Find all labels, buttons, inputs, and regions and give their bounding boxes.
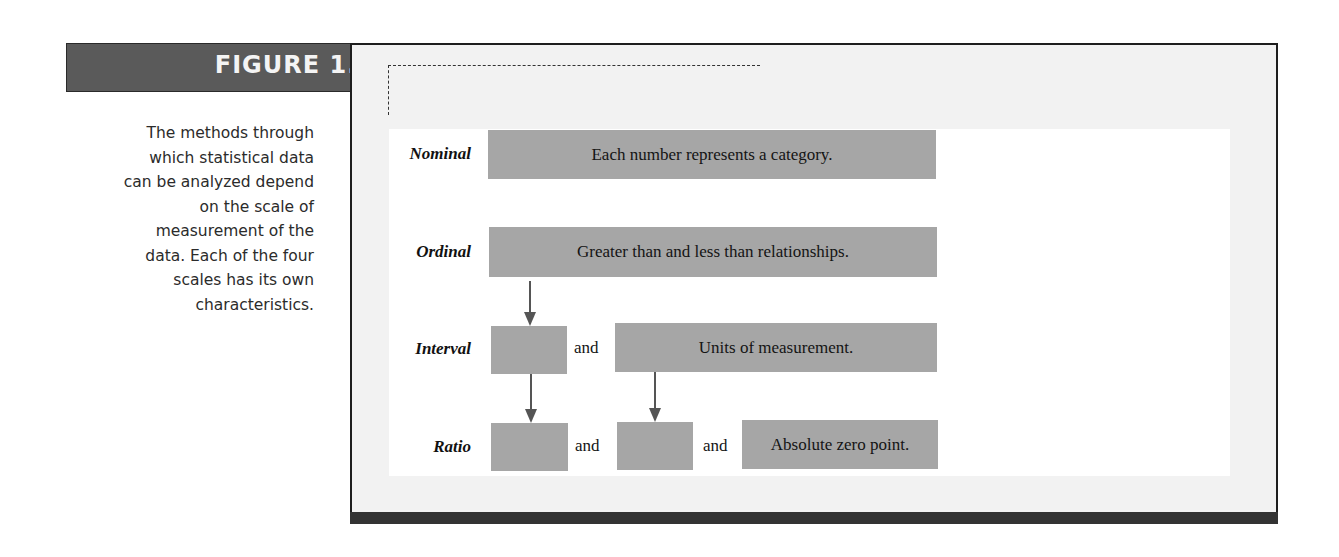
caption-line: which statistical data xyxy=(20,146,314,171)
dashed-leader-vertical xyxy=(388,65,389,115)
ordinal-box: Greater than and less than relationships… xyxy=(489,227,937,277)
figure-caption: The methods through which statistical da… xyxy=(20,121,314,317)
and-connector: and xyxy=(703,436,728,456)
ratio-absolute-zero-text: Absolute zero point. xyxy=(771,435,909,455)
arrow-down-icon xyxy=(649,372,661,422)
and-connector: and xyxy=(575,436,600,456)
ratio-absolute-zero-box: Absolute zero point. xyxy=(742,420,938,469)
caption-line: measurement of the xyxy=(20,219,314,244)
ordinal-box-text: Greater than and less than relationships… xyxy=(577,242,849,262)
dashed-leader-horizontal xyxy=(388,65,760,66)
caption-line: on the scale of xyxy=(20,195,314,220)
row-label-ratio: Ratio xyxy=(371,437,471,457)
caption-line: characteristics. xyxy=(20,293,314,318)
ratio-inherited-box-2 xyxy=(617,422,693,470)
row-label-nominal: Nominal xyxy=(371,144,471,164)
interval-units-text: Units of measurement. xyxy=(699,338,853,358)
arrow-down-icon xyxy=(525,374,537,423)
and-connector: and xyxy=(574,338,599,358)
row-label-interval: Interval xyxy=(371,339,471,359)
figure-frame-bottom-band xyxy=(350,512,1278,524)
interval-inherited-box xyxy=(491,326,567,374)
interval-units-box: Units of measurement. xyxy=(615,323,937,372)
arrow-down-icon xyxy=(524,281,536,326)
caption-line: can be analyzed depend xyxy=(20,170,314,195)
caption-line: The methods through xyxy=(20,121,314,146)
nominal-box: Each number represents a category. xyxy=(488,130,936,179)
nominal-box-text: Each number represents a category. xyxy=(591,145,832,165)
caption-line: scales has its own xyxy=(20,268,314,293)
row-label-ordinal: Ordinal xyxy=(371,242,471,262)
caption-line: data. Each of the four xyxy=(20,244,314,269)
ratio-inherited-box-1 xyxy=(491,423,568,471)
